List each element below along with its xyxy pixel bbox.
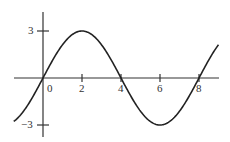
y-tick-label-3: 3 <box>28 25 34 36</box>
x-tick-label-0: 0 <box>47 83 53 94</box>
x-tick-label-4: 4 <box>118 83 124 94</box>
x-tick-label-6: 6 <box>157 83 163 94</box>
sine-plot <box>0 0 230 142</box>
x-tick-label-8: 8 <box>196 83 202 94</box>
x-tick-label-2: 2 <box>79 83 85 94</box>
y-tick-label-neg3: −3 <box>21 119 33 130</box>
